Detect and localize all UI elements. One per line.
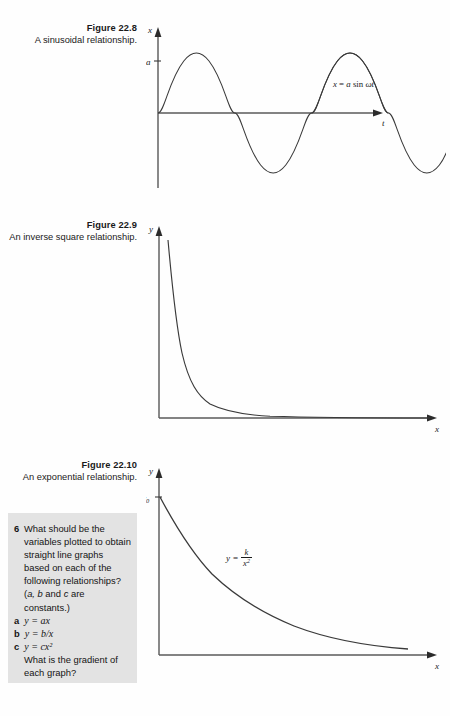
item-label-a: a [14, 614, 19, 627]
exercise-items: a y = ax b y = b/x c y = cx² [14, 614, 131, 653]
equation-sin: sin [353, 79, 363, 89]
y-axis-label: y [148, 224, 153, 234]
figure-22-8: Figure 22.8 A sinusoidal relationship. x… [0, 18, 450, 210]
equation-var-t: t [372, 79, 374, 89]
tail-line-2: each graph? [24, 667, 76, 678]
item-label-b: b [14, 627, 20, 640]
exercise-item-c: c y = cx² [14, 640, 131, 653]
figure-22-8-caption: Figure 22.8 A sinusoidal relationship. [8, 22, 137, 47]
figure-22-9-caption-title: Figure 22.9 [8, 219, 137, 231]
y-axis-label: y [148, 466, 153, 476]
exercise-content: 6 What should be the variables plotted t… [14, 522, 131, 679]
figure-22-8-equation: x = a sin ωt [333, 79, 374, 89]
exponential-graph: y x y0 [146, 455, 446, 675]
sinusoidal-graph: x t a [146, 18, 446, 208]
exercise-item-b: b y = b/x [14, 627, 131, 640]
exercise-item-a: a y = ax [14, 614, 131, 627]
item-label-c: c [14, 640, 19, 653]
x-axis-label: x [434, 661, 439, 671]
exercise-number: 6 [14, 522, 19, 535]
figure-22-9-plot: y x [146, 215, 446, 440]
y-axis-arrowhead [155, 27, 162, 37]
figure-22-9-caption-subtitle: An inverse square relationship. [8, 231, 137, 243]
figure-22-9: Figure 22.9 An inverse square relationsh… [0, 215, 450, 443]
x-axis-arrowhead [427, 652, 437, 659]
y-axis-label: x [147, 25, 152, 35]
textbook-page: Figure 22.8 A sinusoidal relationship. x… [0, 0, 450, 716]
inverse-square-graph: y x [146, 215, 446, 440]
equation-lhs: x [333, 79, 337, 89]
x-axis-arrowhead [373, 110, 383, 117]
figure-22-8-plot: x t a [146, 18, 446, 208]
x-axis-label: t [382, 118, 385, 128]
prompt-line-1: What should be the [24, 523, 105, 534]
y-axis-arrowhead [156, 226, 163, 236]
equation-amplitude: a [346, 79, 350, 89]
figure-22-10-caption: Figure 22.10 An exponential relationship… [8, 459, 137, 484]
y0-tick-label: y0 [146, 493, 150, 504]
prompt-line-2: variables plotted to [24, 536, 103, 547]
item-expression-b: y = b/x [25, 627, 53, 640]
figure-22-10-plot: y x y0 [146, 455, 446, 675]
exponential-curve [160, 497, 408, 649]
figure-22-9-caption: Figure 22.9 An inverse square relationsh… [8, 219, 137, 244]
exercise-prompt: What should be the variables plotted to … [24, 522, 131, 614]
exercise-tail: What is the gradient of each graph? [24, 653, 131, 679]
exercise-box: 6 What should be the variables plotted t… [8, 513, 137, 683]
item-expression-c: y = cx² [24, 640, 52, 653]
x-axis-label: x [434, 424, 439, 434]
prompt-line-7: and [43, 588, 61, 599]
item-expression-a: y = ax [24, 614, 50, 627]
y-axis-arrowhead [156, 468, 163, 478]
equation-equals: = [339, 79, 344, 89]
inverse-square-curve [168, 240, 430, 418]
y-tick-label-a: a [146, 57, 151, 67]
tail-line-1: What is the gradient of [24, 654, 118, 665]
figure-22-8-caption-title: Figure 22.8 [8, 22, 137, 34]
figure-22-8-caption-subtitle: A sinusoidal relationship. [8, 34, 137, 46]
figure-22-10-caption-title: Figure 22.10 [8, 459, 137, 471]
figure-22-10-caption-subtitle: An exponential relationship. [8, 471, 137, 483]
prompt-constants-ab: a, b [27, 588, 43, 599]
